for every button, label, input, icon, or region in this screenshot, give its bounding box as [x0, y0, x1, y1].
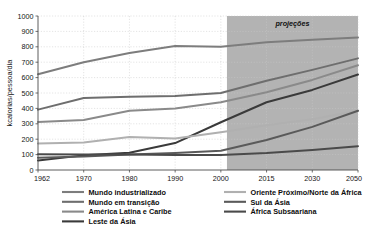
y-tick-label: 600 [22, 73, 34, 82]
x-tick-label: 1990 [167, 174, 183, 183]
y-tick-label: 800 [22, 42, 34, 51]
y-tick-label: 200 [22, 135, 34, 144]
projection-label: projeções [274, 19, 309, 28]
legend-item[interactable]: Mundo industrializado [62, 188, 166, 197]
x-tick-label: 1962 [34, 174, 50, 183]
legend-item-label: Mundo em transição [89, 198, 160, 207]
y-axis-title: kcalorias/pessoa/dia [5, 59, 14, 127]
x-tick-label: 1980 [121, 174, 137, 183]
legend-item[interactable]: América Latina e Caribe [62, 207, 172, 216]
x-tick-label: 1970 [76, 174, 92, 183]
y-axis-label: kcalorias/pessoa/dia [5, 59, 14, 127]
legend-item-label: Sul da Ásia [251, 198, 291, 207]
x-tick-label: 2000 [213, 174, 229, 183]
chart-container: 01002003004005006007008009001000 1962197… [0, 0, 366, 239]
legend-item[interactable]: África Subsaariana [224, 207, 318, 216]
legend-item[interactable]: Mundo em transição [62, 198, 160, 207]
y-tick-label: 100 [22, 150, 34, 159]
legend-item[interactable]: Leste da Ásia [62, 217, 136, 226]
x-axis-tick-labels: 19621970198019902000201520302050 [34, 174, 362, 183]
line-chart: 01002003004005006007008009001000 1962197… [0, 0, 366, 239]
y-tick-label: 500 [22, 89, 34, 98]
y-axis-tick-labels: 01002003004005006007008009001000 [18, 12, 34, 175]
legend-item-label: América Latina e Caribe [89, 207, 172, 216]
y-tick-label: 0 [30, 166, 34, 175]
y-tick-label: 1000 [18, 12, 34, 21]
legend-item[interactable]: Oriente Próximo/Norte da África [224, 188, 363, 197]
legend-item-label: Leste da Ásia [89, 217, 137, 226]
x-tick-label: 2050 [346, 174, 362, 183]
y-tick-label: 900 [22, 27, 34, 36]
y-tick-label: 700 [22, 58, 34, 67]
y-tick-label: 400 [22, 104, 34, 113]
x-tick-label: 2015 [259, 174, 275, 183]
x-tick-label: 2030 [304, 174, 320, 183]
legend-item-label: Oriente Próximo/Norte da África [251, 188, 363, 197]
legend-item-label: Mundo industrializado [89, 188, 167, 197]
y-tick-label: 300 [22, 119, 34, 128]
projection-annotation: projeções [274, 19, 309, 28]
chart-legend: Mundo industrializadoMundo em transiçãoA… [62, 188, 363, 226]
legend-item[interactable]: Sul da Ásia [224, 198, 291, 207]
legend-item-label: África Subsaariana [251, 207, 318, 216]
